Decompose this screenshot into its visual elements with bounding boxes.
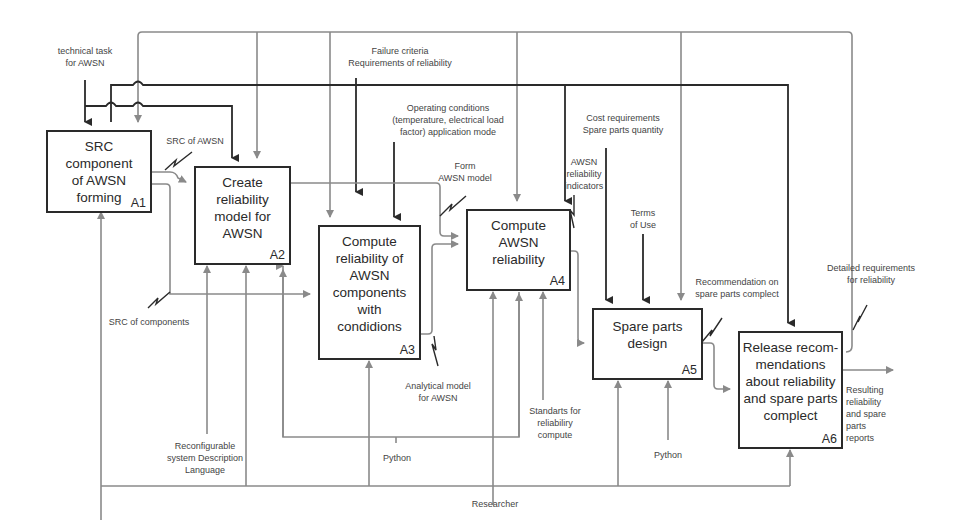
label-researcher: Researcher [465,498,525,510]
activity-box-a6[interactable]: Release recom- mendations about reliabil… [738,331,843,449]
label-form-awsn-model: Form AWSN model [430,160,500,184]
node-id: A3 [400,343,415,357]
label-resulting-reports: Resulting reliability and spare parts re… [846,384,906,444]
label-python-a5: Python [643,449,693,461]
label-python-a2-a4: Python [372,452,422,464]
node-id: A1 [131,196,146,210]
label-src-of-components: SRC of components [104,316,194,328]
label-operating-conditions: Operating conditions (temperature, elect… [378,102,518,138]
activity-title: Compute AWSN reliability [487,217,550,268]
label-failure-criteria: Failure criteria Requirements of reliabi… [330,45,470,69]
activity-box-a4[interactable]: Compute AWSN reliability A4 [466,209,571,291]
node-id: A6 [822,432,837,446]
activity-box-a5[interactable]: Spare parts design A5 [592,308,703,380]
node-id: A5 [682,363,697,377]
activity-title: Release recom- mendations about reliabil… [742,339,839,424]
label-technical-task: technical task for AWSN [40,45,130,69]
activity-title: Spare parts design [609,318,687,352]
label-terms-of-use: Terms of Use [620,207,666,231]
node-id: A4 [550,274,565,288]
activity-title: Create reliability model for AWSN [210,174,274,242]
activity-box-a2[interactable]: Create reliability model for AWSN A2 [194,166,291,265]
label-reconfigurable-language: Reconfigurable system Description Langua… [150,440,260,476]
label-awsn-reliability-indicators: AWSN reliability indicators [554,156,614,192]
activity-title: Compute reliability of AWSN components w… [329,233,411,335]
activity-box-a3[interactable]: Compute reliability of AWSN components w… [318,225,421,360]
activity-box-a1[interactable]: SRC component of AWSN forming A1 [46,130,152,213]
label-src-of-awsn: SRC of AWSN [160,135,230,147]
node-id: A2 [270,248,285,262]
label-cost-requirements: Cost requirements Spare parts quantity [568,112,678,136]
label-analytical-model: Analytical model for AWSN [398,380,478,404]
label-recommendation-spare-parts: Recommendation on spare parts complect [682,276,792,300]
label-standards: Standarts for reliabiliry compute [520,405,590,441]
label-detailed-requirements: Detailed requirements for reliability [816,262,926,286]
